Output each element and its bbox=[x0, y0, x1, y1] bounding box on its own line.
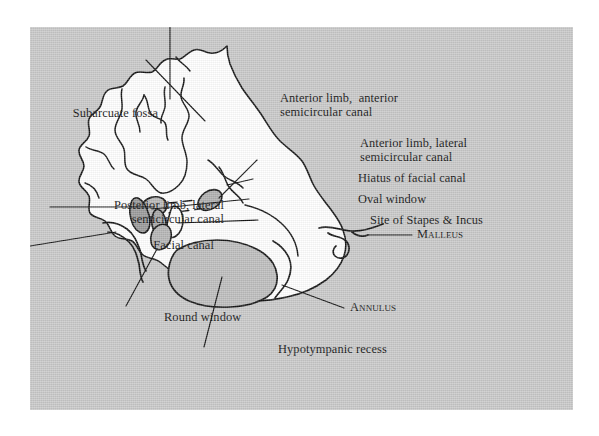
label-facial-canal: Facial canal bbox=[68, 239, 214, 253]
label-hiatus-of-facial-canal: Hiatus of facial canal bbox=[358, 172, 466, 186]
label-posterior-limb-lateral-line2: semicircular canal bbox=[72, 213, 224, 227]
figure-page: Subarcuate fossa Anterior limb, anterior… bbox=[0, 0, 599, 436]
label-anterior-limb-lateral-line1: Anterior limb, lateral bbox=[360, 137, 467, 151]
label-stapes-incus-smallcaps: Stapes & Incus bbox=[407, 213, 483, 227]
figure-plate: Subarcuate fossa Anterior limb, anterior… bbox=[30, 27, 573, 410]
label-site-of-stapes-and-incus: Site of Stapes & Incus bbox=[370, 214, 483, 228]
label-hypotympanic-recess: Hypotympanic recess bbox=[278, 343, 387, 357]
label-anterior-limb-anterior-line2: semicircular canal bbox=[280, 106, 372, 120]
label-posterior-limb-lateral-line1: Posterior limb, lateral bbox=[72, 199, 224, 213]
malleus-neck bbox=[352, 232, 368, 236]
label-anterior-limb-anterior-line1: Anterior limb, anterior bbox=[280, 92, 398, 106]
label-annulus: Annulus bbox=[350, 301, 396, 315]
label-anterior-limb-lateral-line2: semicircular canal bbox=[360, 151, 452, 165]
label-oval-window: Oval window bbox=[358, 193, 426, 207]
label-site-of-prefix: Site of bbox=[370, 213, 407, 227]
label-malleus: Malleus bbox=[417, 228, 463, 242]
label-round-window: Round window bbox=[164, 311, 241, 325]
label-subarcuate-fossa: Subarcuate fossa bbox=[30, 107, 158, 121]
